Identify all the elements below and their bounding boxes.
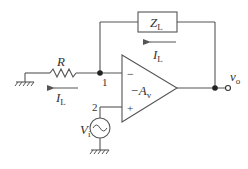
current-label-top: IL <box>152 47 163 64</box>
opamp: − + −Av <box>122 55 177 122</box>
output-node <box>212 85 218 91</box>
gain-label: −Av <box>130 83 152 100</box>
output: vo <box>177 69 241 91</box>
output-terminal <box>226 86 231 91</box>
source-branch: 2 <box>92 101 122 118</box>
ac-source-icon: Vi <box>80 118 110 139</box>
resistor-branch: R <box>25 54 122 77</box>
current-arrow-top: IL <box>150 42 176 64</box>
ground-icon-left <box>15 73 34 86</box>
resistor-r <box>50 69 76 77</box>
output-label: vo <box>230 69 241 86</box>
source-label: Vi <box>80 122 91 139</box>
resistor-label: R <box>56 54 65 69</box>
svg-text:1: 1 <box>102 76 108 88</box>
circuit-diagram: ZL IL R IL 1 − + −Av <box>0 0 248 169</box>
current-label-bottom: IL <box>55 90 66 107</box>
inverting-input-sign: − <box>127 67 134 81</box>
ground-icon-bottom <box>90 138 109 154</box>
zl-label: ZL <box>150 15 163 32</box>
node-2-label: 2 <box>92 101 98 113</box>
load-impedance-zl: ZL <box>138 12 177 32</box>
current-arrow-bottom: IL <box>54 88 78 107</box>
noninverting-input-sign: + <box>127 102 133 114</box>
